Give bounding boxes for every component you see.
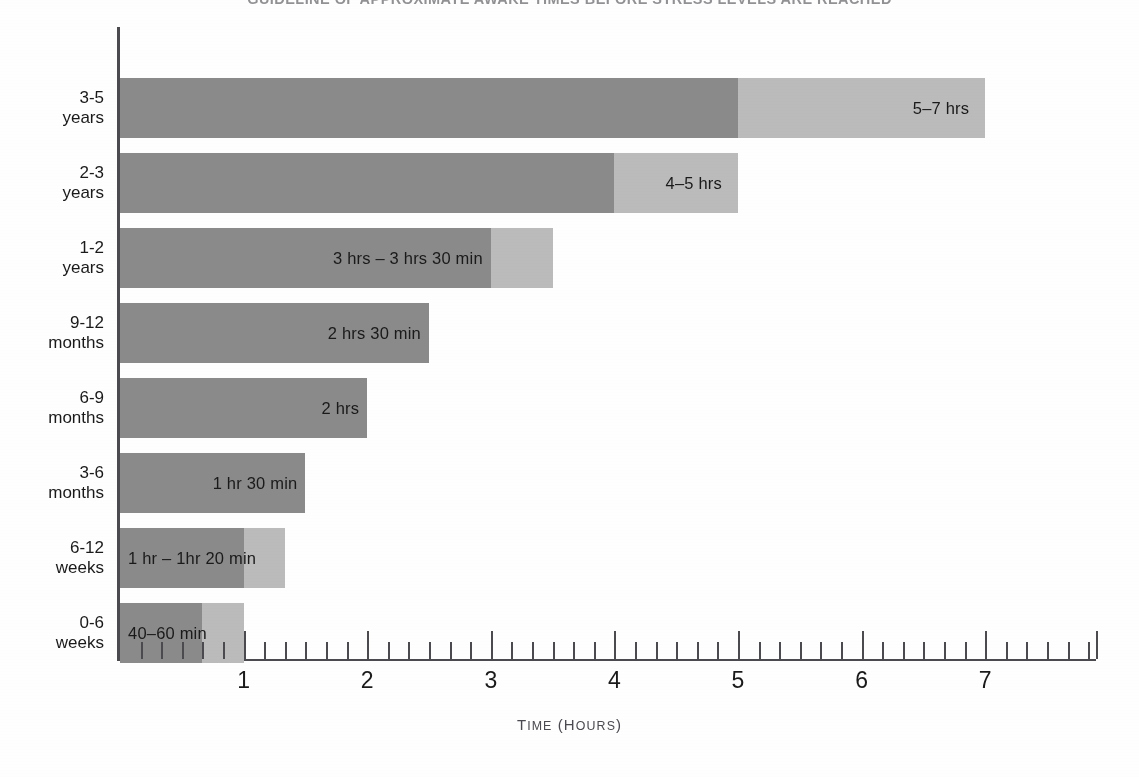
x-axis-minor-tick xyxy=(326,642,328,659)
bar-segment-range xyxy=(491,228,553,288)
x-axis-major-tick xyxy=(862,631,864,659)
bar-value-label: 3 hrs – 3 hrs 30 min xyxy=(333,249,483,268)
x-axis-minor-tick xyxy=(573,642,575,659)
category-label-line1: 9-12 xyxy=(48,313,104,333)
x-axis-minor-tick xyxy=(882,642,884,659)
x-axis-title-t: T xyxy=(517,716,527,733)
x-axis-major-tick xyxy=(244,631,246,659)
x-axis-minor-tick xyxy=(429,642,431,659)
x-axis-tick-label: 6 xyxy=(855,667,868,694)
x-axis-tick-label: 4 xyxy=(608,667,621,694)
category-label-line1: 6-9 xyxy=(48,388,104,408)
x-axis-minor-tick xyxy=(305,642,307,659)
bar-row[interactable]: 1 hr 30 min xyxy=(120,453,305,513)
category-label: 3-5years xyxy=(62,88,104,128)
x-axis-minor-tick xyxy=(388,642,390,659)
x-axis-minor-tick xyxy=(944,642,946,659)
x-axis-minor-tick xyxy=(141,642,143,659)
bar-value-label: 2 hrs 30 min xyxy=(328,324,421,343)
x-axis-minor-tick xyxy=(264,642,266,659)
category-label: 1-2years xyxy=(62,238,104,278)
bar-segment-min xyxy=(120,78,738,138)
category-label-line1: 6-12 xyxy=(56,538,104,558)
x-axis-minor-tick xyxy=(594,642,596,659)
x-axis-title: TIME (HOURS) xyxy=(0,716,1139,733)
category-label-line2: months xyxy=(48,408,104,428)
x-axis-minor-tick xyxy=(1026,642,1028,659)
category-label-line1: 1-2 xyxy=(62,238,104,258)
x-axis-minor-tick xyxy=(532,642,534,659)
x-axis-minor-tick xyxy=(697,642,699,659)
x-axis-title-ime: IME xyxy=(527,719,552,733)
x-axis-minor-tick xyxy=(656,642,658,659)
bar-row[interactable]: 2 hrs xyxy=(120,378,367,438)
x-axis-minor-tick xyxy=(759,642,761,659)
bar-value-label: 40–60 min xyxy=(128,624,207,643)
x-axis-minor-tick xyxy=(161,642,163,659)
x-axis-minor-tick xyxy=(1088,642,1090,659)
category-label-line1: 2-3 xyxy=(62,163,104,183)
x-axis-major-tick xyxy=(738,631,740,659)
x-axis-minor-tick xyxy=(1068,642,1070,659)
x-axis-minor-tick xyxy=(820,642,822,659)
bar-value-label: 2 hrs xyxy=(322,399,360,418)
x-axis-minor-tick xyxy=(408,642,410,659)
x-axis-minor-tick xyxy=(717,642,719,659)
category-label-line1: 3-5 xyxy=(62,88,104,108)
category-label-line2: weeks xyxy=(56,558,104,578)
x-axis-minor-tick xyxy=(1006,642,1008,659)
x-axis-major-tick xyxy=(491,631,493,659)
category-label-line1: 3-6 xyxy=(48,463,104,483)
category-label-line2: years xyxy=(62,183,104,203)
bar-row[interactable]: 5–7 hrs xyxy=(120,78,985,138)
x-axis-minor-tick xyxy=(347,642,349,659)
x-axis-minor-tick xyxy=(923,642,925,659)
bar-value-label: 1 hr 30 min xyxy=(213,474,298,493)
x-axis-major-tick xyxy=(614,631,616,659)
x-axis-minor-tick xyxy=(285,642,287,659)
category-label-line2: years xyxy=(62,108,104,128)
x-axis-minor-tick xyxy=(470,642,472,659)
category-label-line1: 0-6 xyxy=(56,613,104,633)
x-axis-minor-tick xyxy=(676,642,678,659)
chart-plot-area: 3-5years2-3years1-2years9-12months6-9mon… xyxy=(0,0,1139,777)
category-label: 9-12months xyxy=(48,313,104,353)
bar-row[interactable]: 4–5 hrs xyxy=(120,153,738,213)
x-axis-minor-tick xyxy=(841,642,843,659)
category-label: 2-3years xyxy=(62,163,104,203)
category-label: 6-9months xyxy=(48,388,104,428)
bar-segment-min xyxy=(120,153,614,213)
x-axis-minor-tick xyxy=(635,642,637,659)
x-axis-minor-tick xyxy=(1047,642,1049,659)
x-axis-end-tick xyxy=(1096,631,1098,659)
category-label-line2: months xyxy=(48,333,104,353)
x-axis-minor-tick xyxy=(903,642,905,659)
x-axis-minor-tick xyxy=(800,642,802,659)
x-axis-minor-tick xyxy=(202,642,204,659)
bar-value-label: 5–7 hrs xyxy=(913,99,969,118)
x-axis-line xyxy=(117,659,1096,661)
bar-row[interactable]: 2 hrs 30 min xyxy=(120,303,429,363)
bar-row[interactable]: 3 hrs – 3 hrs 30 min xyxy=(120,228,553,288)
x-axis-title-paren-close: ) xyxy=(616,716,622,733)
x-axis-minor-tick xyxy=(779,642,781,659)
category-label-line2: weeks xyxy=(56,633,104,653)
x-axis-minor-tick xyxy=(553,642,555,659)
x-axis-title-ours: OURS xyxy=(576,719,616,733)
bar-value-label: 4–5 hrs xyxy=(666,174,722,193)
x-axis-tick-label: 7 xyxy=(979,667,992,694)
x-axis-tick-label: 2 xyxy=(361,667,374,694)
category-label-line2: months xyxy=(48,483,104,503)
x-axis-minor-tick xyxy=(182,642,184,659)
bar-value-label: 1 hr – 1hr 20 min xyxy=(128,549,256,568)
x-axis-minor-tick xyxy=(450,642,452,659)
x-axis-minor-tick xyxy=(223,642,225,659)
x-axis-tick-label: 5 xyxy=(732,667,745,694)
category-label: 3-6months xyxy=(48,463,104,503)
category-label-line2: years xyxy=(62,258,104,278)
bar-row[interactable]: 1 hr – 1hr 20 min xyxy=(120,528,285,588)
x-axis-major-tick xyxy=(367,631,369,659)
x-axis-title-h: H xyxy=(564,716,576,733)
category-label: 6-12weeks xyxy=(56,538,104,578)
x-axis-minor-tick xyxy=(965,642,967,659)
